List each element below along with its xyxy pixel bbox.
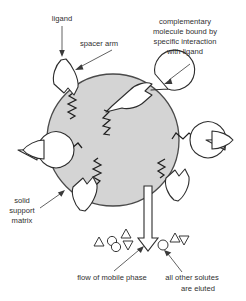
ligand-left: [23, 140, 44, 159]
leader-spacer-arm-arrowhead: [75, 64, 84, 70]
leader-ligand-arrowhead: [59, 50, 65, 57]
solute-triangle-up: [94, 237, 104, 246]
leader-solid-support: [40, 194, 60, 208]
label-solid-line3: matrix: [12, 216, 33, 225]
leader-flow-arrowhead: [137, 246, 144, 253]
label-complementary-line4: with ligand: [166, 47, 203, 56]
solute-group-right: [158, 233, 189, 250]
ligand-right: [212, 131, 233, 149]
label-flow-caption: flow of mobile phase: [77, 273, 147, 282]
leader-eluted: [168, 254, 182, 272]
leader-flow: [114, 250, 139, 271]
label-solid-line1: solid: [14, 196, 30, 205]
solute-triangle-up: [170, 233, 180, 242]
label-complementary-line2: molecule bound by: [153, 27, 217, 36]
solute-group-left: [94, 229, 133, 252]
solute-circle: [111, 242, 120, 251]
label-eluted-line1: all other solutes: [165, 273, 219, 282]
diagram-canvas: ligand spacer arm complementary molecule…: [0, 0, 246, 301]
solute-triangle-down: [123, 241, 133, 250]
solute-triangle-up: [121, 229, 131, 238]
label-complementary-line3: specific interaction: [154, 37, 217, 46]
leader-solid-support-arrowhead: [58, 190, 65, 197]
affinity-chromatography-figure: ligand spacer arm complementary molecule…: [0, 0, 246, 301]
ligand-top-left: [53, 59, 78, 95]
label-solid-line2: support: [9, 206, 35, 215]
label-spacer-arm: spacer arm: [80, 39, 118, 48]
leader-spacer-arm: [80, 50, 112, 67]
ligand-assembly-right: [172, 122, 233, 158]
solute-triangle-down: [179, 236, 189, 245]
label-ligand: ligand: [52, 14, 72, 23]
leader-eluted-arrowhead: [164, 250, 171, 256]
label-complementary-line1: complementary: [159, 17, 211, 26]
complementary-molecule-upper-right: [151, 50, 195, 90]
solute-circle: [158, 240, 168, 250]
label-eluted-line2: are eluted: [181, 284, 215, 293]
